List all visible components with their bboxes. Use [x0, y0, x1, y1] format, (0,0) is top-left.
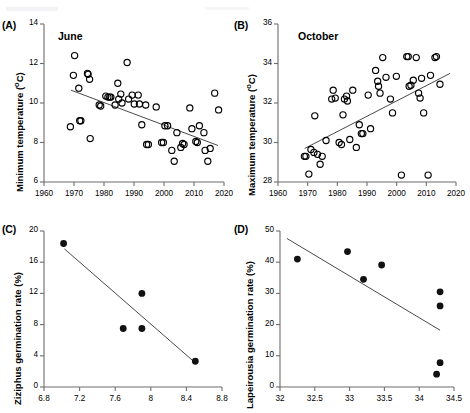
- data-point: [87, 135, 93, 141]
- panel-c-ytick-label: 16: [2, 256, 38, 265]
- panel-d-ytick-label: 50: [238, 225, 274, 234]
- data-point: [393, 73, 399, 79]
- data-point: [421, 110, 427, 116]
- data-point: [437, 288, 444, 295]
- panel-a-ytick-label: 14: [2, 18, 38, 27]
- data-point: [356, 122, 362, 128]
- panel-b-ytick-label: 34: [236, 58, 272, 67]
- panel-a-june-minimum-temperature: (A) June Minimum temperature (oC) 681012…: [0, 14, 232, 206]
- panel-c-xtick-label: 8: [131, 394, 171, 403]
- data-point: [120, 325, 127, 332]
- data-point: [350, 87, 356, 93]
- data-point: [437, 81, 443, 87]
- data-point: [380, 54, 386, 60]
- data-point: [124, 59, 130, 65]
- data-point: [115, 80, 121, 86]
- panel-b-ytick-label: 36: [236, 18, 272, 27]
- data-point: [201, 130, 207, 136]
- panel-a-ytick-label: 8: [2, 137, 38, 146]
- panel-c-ytick-label: 8: [2, 319, 38, 328]
- data-point: [312, 113, 318, 119]
- data-point: [344, 248, 351, 255]
- data-point: [153, 104, 159, 110]
- data-point: [437, 359, 444, 366]
- data-point: [389, 110, 395, 116]
- data-point: [332, 95, 338, 101]
- data-point: [427, 72, 433, 78]
- panel-a-ytick-label: 12: [2, 58, 38, 67]
- panel-c-ytick-label: 12: [2, 287, 38, 296]
- panel-b-xtick-label: 2020: [436, 189, 470, 198]
- data-point: [76, 85, 82, 91]
- data-point: [387, 96, 393, 102]
- data-point: [294, 256, 301, 263]
- panel-d-ytick-label: 10: [238, 350, 274, 359]
- data-point: [317, 161, 323, 167]
- data-point: [67, 124, 73, 130]
- data-point: [192, 358, 199, 365]
- data-point: [373, 67, 379, 73]
- data-point: [383, 74, 389, 80]
- data-point: [377, 90, 383, 96]
- panel-b-ytick-label: 32: [236, 97, 272, 106]
- data-point: [418, 75, 424, 81]
- data-point: [70, 72, 76, 78]
- data-point: [205, 158, 211, 164]
- data-point: [189, 126, 195, 132]
- data-point: [360, 276, 367, 283]
- panel-d-lapeirousia-germination: (D) Lapeirousia germination rate (%) 010…: [232, 219, 463, 413]
- data-point: [353, 144, 359, 150]
- data-point: [196, 123, 202, 129]
- data-point: [169, 147, 175, 153]
- data-point: [367, 126, 373, 132]
- data-point: [216, 107, 222, 113]
- data-point: [60, 240, 67, 247]
- panel-c-xtick-label: 8.4: [166, 394, 206, 403]
- data-point: [129, 92, 135, 98]
- panel-c-xtick-label: 7.6: [95, 394, 135, 403]
- panel-b-ytick-label: 28: [236, 176, 272, 185]
- data-point: [306, 171, 312, 177]
- scan-artifact: [205, 7, 249, 10]
- data-point: [139, 325, 146, 332]
- panel-d-xtick-label: 34.5: [434, 394, 470, 403]
- panel-d-ytick-label: 20: [238, 319, 274, 328]
- panel-d-ytick-label: 40: [238, 256, 274, 265]
- panel-a-ytick-label: 10: [2, 97, 38, 106]
- data-point: [126, 96, 132, 102]
- data-point: [135, 92, 141, 98]
- panel-c-ytick-label: 0: [2, 381, 38, 390]
- panel-d-ytick-label: 0: [238, 381, 274, 390]
- data-point: [365, 92, 371, 98]
- data-point: [340, 112, 346, 118]
- data-point: [398, 172, 404, 178]
- data-point: [143, 102, 149, 108]
- panel-c-xtick-label: 7.2: [60, 394, 100, 403]
- data-point: [139, 122, 145, 128]
- panel-b-ytick-label: 30: [236, 137, 272, 146]
- data-point: [323, 137, 329, 143]
- data-point: [347, 136, 353, 142]
- data-point: [212, 90, 218, 96]
- data-point: [330, 87, 336, 93]
- data-point: [139, 290, 146, 297]
- panel-c-ytick-label: 4: [2, 350, 38, 359]
- data-point: [187, 105, 193, 111]
- panel-a-ytick-label: 6: [2, 176, 38, 185]
- panel-c-ytick-label: 20: [2, 225, 38, 234]
- data-point: [171, 158, 177, 164]
- panel-b-october-maximum-temperature: (B) October Maximum temperature (oC) 283…: [232, 14, 463, 206]
- panel-c-ziziphus-germination: (C) Ziziphus germination rate (%) 048121…: [0, 219, 232, 413]
- data-point: [433, 371, 440, 378]
- data-point: [437, 302, 444, 309]
- data-point: [413, 54, 419, 60]
- scan-artifact: [6, 7, 58, 11]
- data-point: [119, 100, 125, 106]
- data-point: [72, 53, 78, 59]
- data-point: [425, 172, 431, 178]
- data-point: [378, 262, 385, 269]
- panel-d-ytick-label: 30: [238, 287, 274, 296]
- panel-c-xtick-label: 6.8: [24, 394, 64, 403]
